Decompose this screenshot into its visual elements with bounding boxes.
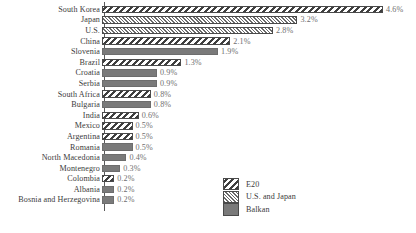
bar-row: South Africa0.8% <box>0 89 416 100</box>
bar-row: China2.1% <box>0 36 416 47</box>
category-label-argentina: Argentina <box>0 132 102 141</box>
value-label-bulgaria: 0.8% <box>151 100 171 109</box>
value-label-mexico: 0.5% <box>133 121 153 130</box>
bar-row: Mexico0.5% <box>0 121 416 132</box>
bar-brazil <box>102 59 181 66</box>
value-label-serbia: 0.9% <box>157 79 177 88</box>
bar-rows: South Korea4.6%Japan3.2%U.S.2.8%China2.1… <box>0 4 416 205</box>
category-label-bosnia-and-herzegovina: Bosnia and Herzegovina <box>0 195 102 204</box>
legend-label-u-s-and-japan: U.S. and Japan <box>239 192 296 201</box>
category-label-brazil: Brazil <box>0 58 102 67</box>
bar-track: 0.9% <box>102 68 416 79</box>
bar-slovenia <box>102 48 218 55</box>
value-label-south-korea: 4.6% <box>383 5 403 14</box>
bar-row: Croatia0.9% <box>0 68 416 79</box>
bar-colombia <box>102 175 114 182</box>
legend-label-balkan: Balkan <box>239 205 270 214</box>
category-label-croatia: Croatia <box>0 68 102 77</box>
bar-albania <box>102 186 114 193</box>
value-label-japan: 3.2% <box>297 15 317 24</box>
category-label-colombia: Colombia <box>0 174 102 183</box>
bar-track: 3.2% <box>102 15 416 26</box>
bar-track: 1.3% <box>102 57 416 68</box>
value-label-china: 2.1% <box>230 37 250 46</box>
bar-track: 2.1% <box>102 36 416 47</box>
legend-swatch-u-s-and-japan <box>223 191 239 203</box>
category-label-south-africa: South Africa <box>0 90 102 99</box>
category-label-mexico: Mexico <box>0 121 102 130</box>
category-label-bulgaria: Bulgaria <box>0 100 102 109</box>
value-label-croatia: 0.9% <box>157 68 177 77</box>
bar-row: Brazil1.3% <box>0 57 416 68</box>
bar-track: 0.4% <box>102 152 416 163</box>
legend-item-e20[interactable]: E20 <box>223 178 296 191</box>
category-label-serbia: Serbia <box>0 79 102 88</box>
legend-item-balkan[interactable]: Balkan <box>223 203 296 216</box>
value-label-bosnia-and-herzegovina: 0.2% <box>114 195 134 204</box>
bar-romania <box>102 143 133 150</box>
bar-argentina <box>102 133 133 140</box>
bar-bulgaria <box>102 101 151 108</box>
bar-row: Japan3.2% <box>0 15 416 26</box>
bar-row: Albania0.2% <box>0 184 416 195</box>
value-label-slovenia: 1.9% <box>218 47 238 56</box>
bar-india <box>102 112 139 119</box>
bar-track: 0.5% <box>102 131 416 142</box>
category-label-u-s: U.S. <box>0 26 102 35</box>
bar-row: Romania0.5% <box>0 142 416 153</box>
legend-swatch-e20 <box>223 178 239 190</box>
bar-serbia <box>102 80 157 87</box>
bar-mexico <box>102 122 133 129</box>
category-label-romania: Romania <box>0 143 102 152</box>
bar-row: U.S.2.8% <box>0 25 416 36</box>
category-label-south-korea: South Korea <box>0 5 102 14</box>
bar-track: 0.6% <box>102 110 416 121</box>
legend-item-u-s-and-japan[interactable]: U.S. and Japan <box>223 191 296 204</box>
bar-track: 4.6% <box>102 4 416 15</box>
bar-row: Colombia0.2% <box>0 174 416 185</box>
value-label-u-s: 2.8% <box>273 26 293 35</box>
bar-montenegro <box>102 165 120 172</box>
value-label-south-africa: 0.8% <box>151 90 171 99</box>
category-label-china: China <box>0 37 102 46</box>
category-label-japan: Japan <box>0 15 102 24</box>
category-label-albania: Albania <box>0 185 102 194</box>
bar-track: 1.9% <box>102 46 416 57</box>
legend-label-e20: E20 <box>239 180 259 189</box>
value-label-north-macedonia: 0.4% <box>126 153 146 162</box>
bar-row: South Korea4.6% <box>0 4 416 15</box>
bar-row: Bosnia and Herzegovina0.2% <box>0 195 416 206</box>
value-label-romania: 0.5% <box>133 143 153 152</box>
bar-track: 0.8% <box>102 89 416 100</box>
bar-track: 2.8% <box>102 25 416 36</box>
bar-japan <box>102 16 297 23</box>
legend-swatch-balkan <box>223 203 239 215</box>
bar-south-korea <box>102 6 383 13</box>
value-label-montenegro: 0.3% <box>120 164 140 173</box>
bar-row: Montenegro0.3% <box>0 163 416 174</box>
bar-bosnia-and-herzegovina <box>102 196 114 203</box>
bar-track: 0.5% <box>102 121 416 132</box>
bar-north-macedonia <box>102 154 126 161</box>
category-label-india: India <box>0 111 102 120</box>
chart-legend: E20U.S. and JapanBalkan <box>223 178 296 216</box>
category-label-north-macedonia: North Macedonia <box>0 153 102 162</box>
bar-track: 0.3% <box>102 163 416 174</box>
category-label-slovenia: Slovenia <box>0 47 102 56</box>
bar-track: 0.5% <box>102 142 416 153</box>
bar-south-africa <box>102 90 151 97</box>
bar-china <box>102 37 230 44</box>
bar-croatia <box>102 69 157 76</box>
bar-row: Serbia0.9% <box>0 78 416 89</box>
value-label-colombia: 0.2% <box>114 174 134 183</box>
bar-row: North Macedonia0.4% <box>0 152 416 163</box>
value-label-argentina: 0.5% <box>133 132 153 141</box>
bar-row: Bulgaria0.8% <box>0 99 416 110</box>
value-label-albania: 0.2% <box>114 185 134 194</box>
bar-row: Argentina0.5% <box>0 131 416 142</box>
bar-track: 0.8% <box>102 99 416 110</box>
bar-chart: South Korea4.6%Japan3.2%U.S.2.8%China2.1… <box>0 0 416 233</box>
bar-row: India0.6% <box>0 110 416 121</box>
category-label-montenegro: Montenegro <box>0 164 102 173</box>
bar-row: Slovenia1.9% <box>0 46 416 57</box>
